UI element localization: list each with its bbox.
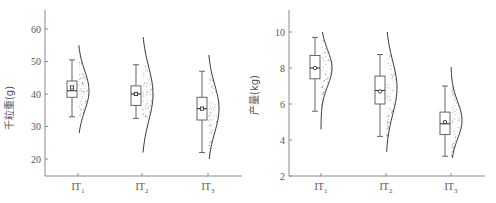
- data-point: [142, 109, 143, 110]
- data-point: [79, 85, 80, 86]
- data-point: [210, 119, 211, 120]
- data-point: [215, 91, 216, 92]
- data-point: [453, 148, 454, 149]
- data-point: [394, 75, 395, 76]
- y-tick-label: 20: [31, 154, 41, 165]
- data-point: [146, 116, 147, 117]
- data-point: [212, 80, 213, 81]
- data-point: [388, 63, 389, 64]
- data-point: [213, 119, 214, 120]
- data-point: [390, 100, 391, 101]
- data-point: [212, 133, 213, 134]
- data-point: [388, 58, 389, 59]
- data-point: [218, 104, 219, 105]
- data-point: [459, 120, 460, 121]
- data-point: [451, 156, 452, 157]
- data-point: [388, 124, 389, 125]
- data-point: [387, 122, 388, 123]
- data-point: [144, 83, 145, 84]
- data-point: [391, 65, 392, 66]
- data-point: [212, 93, 213, 94]
- data-point: [86, 101, 87, 102]
- data-point: [212, 102, 213, 103]
- data-point: [209, 145, 210, 146]
- mean-marker: [70, 86, 73, 89]
- data-point: [210, 147, 211, 148]
- data-point: [143, 84, 144, 85]
- data-point: [453, 149, 454, 150]
- data-point: [458, 106, 459, 107]
- data-point: [322, 52, 323, 53]
- data-point: [143, 101, 144, 102]
- data-point: [323, 92, 324, 93]
- mean-marker: [443, 120, 446, 123]
- y-tick-label: 60: [31, 24, 41, 35]
- data-point: [330, 73, 331, 74]
- data-point: [150, 106, 151, 107]
- x-tick-label: IT2: [136, 181, 149, 195]
- data-point: [458, 121, 459, 122]
- data-point: [455, 111, 456, 112]
- data-point: [209, 83, 210, 84]
- data-point: [390, 109, 391, 110]
- data-point: [387, 84, 388, 85]
- data-point: [80, 114, 81, 115]
- data-point: [81, 85, 82, 86]
- y-axis-label: 千粒重(g): [3, 86, 15, 130]
- data-point: [145, 115, 146, 116]
- data-point: [452, 122, 453, 123]
- data-point: [326, 71, 327, 72]
- data-point: [453, 150, 454, 151]
- data-point: [387, 136, 388, 137]
- data-point: [323, 94, 324, 95]
- data-point: [387, 129, 388, 130]
- data-point: [324, 53, 325, 54]
- x-tick-label: IT3: [445, 181, 458, 195]
- data-point: [454, 96, 455, 97]
- mean-marker: [134, 92, 137, 95]
- data-point: [216, 121, 217, 122]
- box-group-it3: IT3: [197, 55, 219, 195]
- data-point: [452, 107, 453, 108]
- data-point: [389, 108, 390, 109]
- data-point: [455, 141, 456, 142]
- data-point: [210, 114, 211, 115]
- data-point: [210, 80, 211, 81]
- data-point: [452, 152, 453, 153]
- data-point: [325, 64, 326, 65]
- data-point: [214, 107, 215, 108]
- data-point: [81, 88, 82, 89]
- data-point: [452, 89, 453, 90]
- data-point: [83, 91, 84, 92]
- density-curve: [321, 32, 332, 129]
- data-point: [143, 91, 144, 92]
- data-point: [148, 108, 149, 109]
- data-point: [147, 117, 148, 118]
- data-point: [454, 131, 455, 132]
- data-point: [325, 79, 326, 80]
- data-point: [389, 122, 390, 123]
- data-point: [457, 103, 458, 104]
- data-point: [209, 112, 210, 113]
- data-point: [79, 115, 80, 116]
- data-point: [81, 109, 82, 110]
- data-point: [321, 87, 322, 88]
- data-point: [458, 118, 459, 119]
- data-point: [85, 107, 86, 108]
- data-point: [209, 102, 210, 103]
- data-point: [144, 73, 145, 74]
- density-curve: [387, 32, 397, 152]
- data-point: [452, 147, 453, 148]
- data-point: [148, 79, 149, 80]
- data-point: [80, 110, 81, 111]
- data-point: [84, 76, 85, 77]
- data-point: [322, 57, 323, 58]
- data-point: [325, 61, 326, 62]
- data-point: [83, 84, 84, 85]
- data-point: [456, 102, 457, 103]
- data-point: [210, 124, 211, 125]
- data-point: [146, 104, 147, 105]
- data-point: [146, 92, 147, 93]
- y-axis-label: 产量(kg): [248, 75, 260, 115]
- data-point: [216, 115, 217, 116]
